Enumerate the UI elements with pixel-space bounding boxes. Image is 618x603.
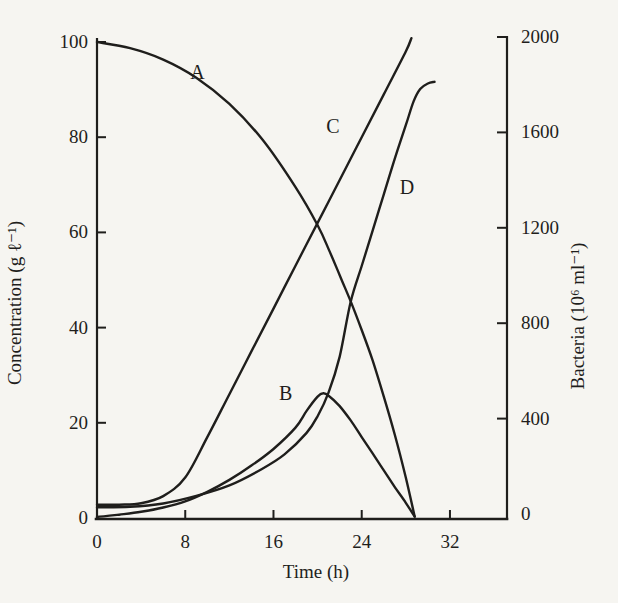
right-tick-label: 1200 [521, 217, 559, 238]
right-tick-label: 1600 [521, 121, 559, 142]
curve-C [97, 38, 411, 505]
curve-B [97, 393, 415, 517]
left-tick-label: 20 [69, 412, 88, 433]
right-tick-label: 800 [521, 312, 550, 333]
left-tick-label: 80 [69, 126, 88, 147]
x-tick-label: 32 [440, 531, 459, 552]
right-tick-label: 0 [521, 503, 531, 524]
right-tick-label: 400 [521, 408, 550, 429]
scanned-figure-page: 020406080100081624320400800120016002000A… [0, 0, 618, 603]
x-tick-label: 24 [352, 531, 372, 552]
curve-label-A: A [190, 61, 205, 83]
curve-label-C: C [326, 115, 339, 137]
fermentation-time-course-chart: 020406080100081624320400800120016002000A… [0, 0, 618, 603]
right-axis-title: Bacteria (10⁶ ml⁻¹) [567, 243, 589, 390]
left-axis-title: Concentration (g ℓ⁻¹) [4, 221, 26, 385]
x-axis-title: Time (h) [283, 561, 349, 583]
x-tick-label: 8 [180, 531, 190, 552]
left-tick-label: 100 [60, 31, 89, 52]
left-tick-label: 40 [69, 317, 88, 338]
x-tick-label: 0 [92, 531, 102, 552]
right-tick-label: 2000 [521, 26, 559, 47]
curve-label-D: D [400, 176, 414, 198]
left-tick-label: 0 [79, 507, 89, 528]
x-tick-label: 16 [264, 531, 283, 552]
chart-draw-layer: 020406080100081624320400800120016002000A… [60, 26, 560, 552]
left-tick-label: 60 [69, 221, 88, 242]
curve-label-B: B [279, 382, 292, 404]
